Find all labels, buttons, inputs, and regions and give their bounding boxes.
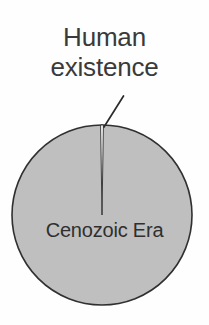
callout-leader-line — [104, 96, 124, 127]
pie-chart-figure: Human existence Cenozoic Era — [0, 0, 209, 325]
pie-chart-canvas — [0, 0, 209, 325]
